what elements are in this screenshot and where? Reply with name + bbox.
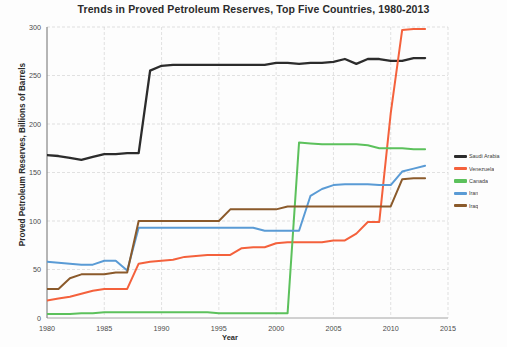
y-tick-label: 200: [29, 120, 41, 129]
legend-swatch-icon: [454, 192, 467, 195]
y-tick-label: 250: [29, 71, 41, 80]
series-line-iraq: [47, 178, 425, 289]
legend-item-iraq[interactable]: Iraq: [454, 200, 507, 212]
legend-item-label: Venezuela: [469, 166, 494, 172]
legend-swatch-icon: [454, 167, 467, 170]
legend-item-label: Canada: [469, 178, 488, 184]
chart-screenshot: Trends in Proved Petroleum Reserves, Top…: [0, 0, 507, 347]
y-tick-label: 50: [33, 265, 41, 274]
legend-swatch-icon: [454, 204, 467, 207]
x-tick-label: 1995: [211, 324, 227, 333]
legend-item-canada[interactable]: Canada: [454, 175, 507, 187]
x-tick-label: 2005: [325, 324, 341, 333]
x-tick-label: 1990: [154, 324, 170, 333]
legend-item-saudi-arabia[interactable]: Saudi Arabia: [454, 150, 507, 162]
legend-item-label: Saudi Arabia: [469, 153, 500, 159]
legend-swatch-icon: [454, 155, 467, 158]
x-axis-ticks: 19801985199019952000200520102015: [39, 324, 456, 333]
y-tick-label: 150: [29, 168, 41, 177]
x-tick-label: 2010: [383, 324, 399, 333]
legend-item-venezuela[interactable]: Venezuela: [454, 162, 507, 174]
x-tick-label: 2000: [268, 324, 284, 333]
y-tick-label: 100: [29, 217, 41, 226]
y-axis-ticks: 050100150200250300: [29, 23, 41, 323]
legend-swatch-icon: [454, 179, 467, 182]
data-series-layer: [47, 29, 425, 314]
series-line-venezuela: [47, 29, 425, 301]
x-tick-label: 1985: [96, 324, 112, 333]
series-line-iran: [47, 166, 425, 271]
x-tick-label: 1980: [39, 324, 55, 333]
legend-item-label: Iraq: [469, 203, 478, 209]
y-tick-label: 0: [37, 314, 41, 323]
x-tick-label: 2015: [440, 324, 456, 333]
chart-legend: Saudi ArabiaVenezuelaCanadaIranIraq: [454, 150, 507, 212]
y-tick-label: 300: [29, 23, 41, 32]
legend-item-iran[interactable]: Iran: [454, 187, 507, 199]
legend-item-label: Iran: [469, 190, 478, 196]
line-chart-plot: 050100150200250300 198019851990199520002…: [0, 0, 507, 347]
